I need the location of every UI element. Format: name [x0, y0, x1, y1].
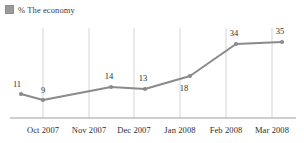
data-point-marker — [188, 74, 192, 78]
data-point-label: 13 — [139, 74, 148, 83]
data-point-marker — [234, 42, 238, 46]
x-tick-label: Jan 2008 — [164, 126, 195, 135]
series-markers — [19, 40, 284, 102]
series-line — [21, 42, 282, 100]
data-point-marker — [280, 40, 284, 44]
data-point-marker — [109, 85, 113, 89]
data-point-label: 14 — [105, 72, 114, 81]
chart-container: % The economy 1191413183435 Oct 2007Nov … — [0, 0, 304, 143]
data-point-label: 9 — [41, 86, 45, 95]
series-polyline — [21, 42, 282, 100]
x-tick-label: Nov 2007 — [72, 126, 107, 135]
gridlines — [43, 28, 272, 118]
x-tick-label: Oct 2007 — [27, 126, 59, 135]
data-point-label: 18 — [180, 84, 189, 93]
data-point-marker — [19, 92, 23, 96]
x-tick-label: Mar 2008 — [255, 126, 289, 135]
data-point-marker — [143, 87, 147, 91]
data-point-label: 11 — [13, 80, 21, 89]
plot-area — [0, 0, 304, 143]
data-point-label: 34 — [230, 29, 239, 38]
x-tick-label: Feb 2008 — [210, 126, 243, 135]
data-point-label: 35 — [276, 27, 285, 36]
x-tick-label: Dec 2007 — [117, 126, 151, 135]
data-point-marker — [41, 98, 45, 102]
